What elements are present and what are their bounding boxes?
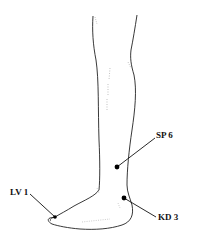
sp6-leader-line: [117, 138, 155, 167]
leg-back-outline: [55, 16, 100, 217]
sp6-label: SP 6: [156, 131, 173, 140]
lv1-leader-line: [30, 194, 55, 217]
shin-shading: [107, 68, 110, 110]
lv1-label: LV 1: [10, 188, 28, 197]
sp6-point-marker: [115, 165, 120, 170]
knee-shading: [95, 17, 131, 68]
kd3-leader-line: [124, 198, 156, 217]
kd3-label: KD 3: [158, 213, 178, 222]
sole-shading: [82, 188, 120, 222]
kd3-point-marker: [122, 196, 127, 201]
leg-diagram: [0, 0, 197, 247]
lv1-point-marker: [53, 215, 57, 219]
